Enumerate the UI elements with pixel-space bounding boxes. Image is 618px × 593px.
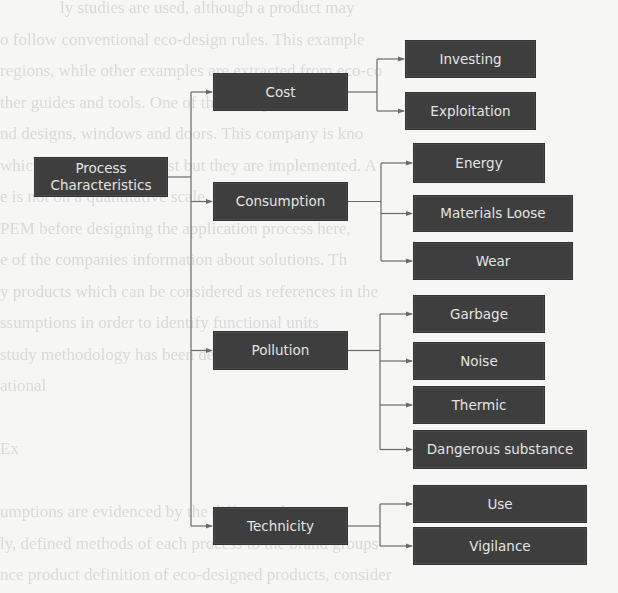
leaf-box-vigilance: Vigilance: [413, 527, 587, 565]
root-label: Process Characteristics: [51, 160, 152, 194]
category-box-consumption: Consumption: [213, 182, 348, 221]
category-box-pollution: Pollution: [213, 331, 348, 370]
leaf-box-use: Use: [413, 485, 587, 523]
leaf-label: Use: [487, 496, 512, 513]
leaf-box-exploitation: Exploitation: [405, 92, 536, 130]
leaf-label: Wear: [476, 253, 511, 270]
category-label: Pollution: [252, 342, 310, 359]
leaf-box-investing: Investing: [405, 40, 536, 78]
category-label: Technicity: [247, 518, 314, 535]
leaf-label: Garbage: [450, 306, 508, 323]
leaf-label: Noise: [460, 353, 497, 370]
leaf-box-materials-loose: Materials Loose: [413, 195, 573, 232]
leaf-box-dangerous-substance: Dangerous substance: [413, 430, 587, 469]
leaf-box-garbage: Garbage: [413, 295, 545, 333]
category-label: Cost: [265, 84, 295, 101]
leaf-label: Investing: [439, 51, 501, 68]
category-box-technicity: Technicity: [213, 507, 348, 545]
root-box-process: Process Characteristics: [34, 157, 168, 197]
leaf-box-thermic: Thermic: [413, 386, 545, 424]
leaf-label: Energy: [455, 155, 502, 172]
leaf-box-wear: Wear: [413, 242, 573, 280]
leaf-label: Dangerous substance: [427, 441, 574, 458]
leaf-box-energy: Energy: [413, 143, 545, 183]
leaf-label: Exploitation: [430, 103, 510, 120]
leaf-label: Vigilance: [469, 538, 530, 555]
category-label: Consumption: [236, 193, 325, 210]
leaf-box-noise: Noise: [413, 342, 545, 380]
leaf-label: Thermic: [452, 397, 507, 414]
category-box-cost: Cost: [213, 73, 348, 111]
leaf-label: Materials Loose: [440, 205, 545, 222]
